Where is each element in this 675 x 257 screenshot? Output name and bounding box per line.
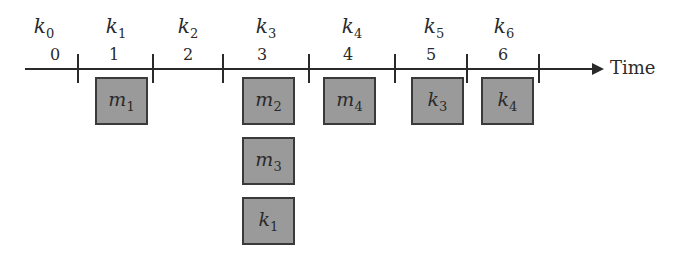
message-box: k4 bbox=[481, 77, 534, 125]
box-subscript: 2 bbox=[273, 99, 281, 114]
tick-mark bbox=[394, 54, 396, 83]
tick-mark bbox=[222, 54, 224, 83]
key-base: k bbox=[256, 14, 268, 38]
box-subscript: 4 bbox=[509, 99, 517, 114]
slot-number: 3 bbox=[257, 45, 267, 64]
box-base: m bbox=[108, 88, 126, 110]
key-subscript: 3 bbox=[268, 26, 276, 41]
tick-mark bbox=[538, 54, 540, 83]
box-base: m bbox=[336, 88, 354, 110]
box-base: m bbox=[255, 148, 273, 170]
key-subscript: 2 bbox=[190, 26, 198, 41]
message-box: k1 bbox=[242, 197, 295, 245]
message-box: k3 bbox=[411, 77, 464, 125]
tick-mark bbox=[152, 54, 154, 83]
box-base: k bbox=[428, 88, 440, 110]
key-label: k4 bbox=[342, 14, 362, 41]
box-label: k4 bbox=[498, 88, 518, 114]
key-subscript: 4 bbox=[354, 26, 362, 41]
message-box: m4 bbox=[323, 77, 376, 125]
key-base: k bbox=[424, 14, 436, 38]
box-label: m3 bbox=[255, 148, 281, 174]
key-label: k3 bbox=[256, 14, 276, 41]
key-label: k6 bbox=[494, 14, 514, 41]
slot-number: 6 bbox=[498, 45, 508, 64]
key-subscript: 5 bbox=[436, 26, 444, 41]
key-base: k bbox=[34, 14, 46, 38]
key-subscript: 6 bbox=[506, 26, 514, 41]
key-label: k2 bbox=[178, 14, 198, 41]
key-base: k bbox=[494, 14, 506, 38]
slot-number: 5 bbox=[426, 45, 436, 64]
box-label: k3 bbox=[428, 88, 448, 114]
box-base: k bbox=[259, 208, 271, 230]
message-box: m3 bbox=[242, 137, 295, 185]
time-axis bbox=[25, 68, 595, 70]
arrow-right-icon bbox=[592, 63, 604, 75]
axis-label: Time bbox=[610, 57, 655, 78]
slot-number: 4 bbox=[343, 45, 353, 64]
tick-mark bbox=[77, 54, 79, 83]
box-base: k bbox=[498, 88, 510, 110]
key-label: k5 bbox=[424, 14, 444, 41]
box-subscript: 1 bbox=[270, 219, 278, 234]
box-subscript: 3 bbox=[439, 99, 447, 114]
tick-mark bbox=[308, 54, 310, 83]
key-base: k bbox=[106, 14, 118, 38]
key-label: k1 bbox=[106, 14, 126, 41]
box-label: m2 bbox=[255, 88, 281, 114]
message-box: m2 bbox=[242, 77, 295, 125]
key-subscript: 0 bbox=[46, 26, 54, 41]
key-label: k0 bbox=[34, 14, 54, 41]
slot-number: 2 bbox=[183, 45, 193, 64]
key-subscript: 1 bbox=[118, 26, 126, 41]
key-base: k bbox=[178, 14, 190, 38]
key-base: k bbox=[342, 14, 354, 38]
slot-number: 0 bbox=[50, 45, 60, 64]
box-label: k1 bbox=[259, 208, 279, 234]
box-label: m1 bbox=[108, 88, 134, 114]
message-box: m1 bbox=[95, 77, 148, 125]
slot-number: 1 bbox=[109, 45, 119, 64]
box-subscript: 4 bbox=[354, 99, 362, 114]
box-label: m4 bbox=[336, 88, 362, 114]
box-base: m bbox=[255, 88, 273, 110]
box-subscript: 3 bbox=[273, 159, 281, 174]
tick-mark bbox=[466, 54, 468, 83]
timeline-diagram: k0k1k2k3k4k5k6 0123456 Time m1m2m3k1m4k3… bbox=[0, 0, 675, 257]
box-subscript: 1 bbox=[126, 99, 134, 114]
